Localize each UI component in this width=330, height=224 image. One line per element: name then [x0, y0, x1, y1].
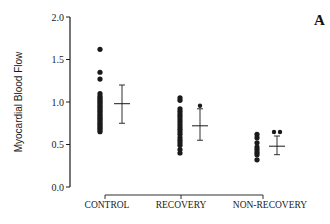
panel-label: A	[314, 12, 325, 29]
data-point	[254, 152, 259, 157]
y-axis: 0.00.51.01.52.0	[52, 12, 71, 193]
y-axis-label: Myocardial Blood Flow	[13, 51, 24, 152]
y-tick-label: 1.0	[52, 97, 65, 108]
significance-bracket	[105, 195, 263, 199]
significance-marker	[278, 130, 282, 134]
x-category-label: NON-RECOVERY	[233, 200, 308, 210]
data-point	[97, 47, 102, 52]
group-non-recovery	[254, 130, 285, 163]
data-point	[177, 150, 182, 155]
data-point	[254, 135, 259, 140]
significance-marker	[272, 130, 276, 134]
x-category-label: CONTROL	[85, 200, 130, 210]
y-tick-label: 0.0	[52, 182, 65, 193]
data-groups	[97, 47, 285, 163]
group-recovery	[177, 95, 208, 155]
significance-marker	[198, 104, 202, 108]
y-tick-label: 2.0	[52, 12, 65, 23]
y-axis-title: Myocardial Blood Flow	[13, 51, 24, 152]
data-point	[97, 76, 102, 81]
data-point	[97, 70, 102, 75]
x-axis-labels: CONTROLRECOVERYNON-RECOVERY	[85, 200, 308, 210]
group-control	[97, 47, 130, 135]
data-point	[254, 157, 259, 162]
y-tick-label: 0.5	[52, 139, 65, 150]
x-category-label: RECOVERY	[156, 200, 207, 210]
data-point	[97, 129, 102, 134]
scatter-chart: 0.00.51.01.52.0 Myocardial Blood Flow CO…	[0, 0, 330, 224]
data-point	[177, 98, 182, 103]
y-tick-label: 1.5	[52, 54, 65, 65]
